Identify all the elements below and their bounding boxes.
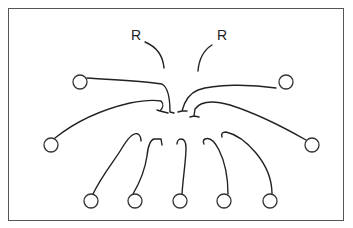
branch-mid-right bbox=[190, 102, 306, 140]
branch-mid-left bbox=[55, 100, 168, 138]
node-upper-left bbox=[73, 75, 87, 89]
branch-bottom-3 bbox=[177, 139, 186, 194]
node-bottom-2 bbox=[128, 194, 142, 208]
branch-bottom-4 bbox=[203, 139, 228, 194]
node-bottom-5 bbox=[263, 194, 277, 208]
branch-bottom-2 bbox=[133, 139, 162, 194]
node-bottom-1 bbox=[84, 194, 98, 208]
branch-upper-left bbox=[87, 78, 174, 113]
node-bottom-3 bbox=[173, 194, 187, 208]
branch-bottom-5 bbox=[222, 132, 272, 194]
node-mid-left bbox=[44, 138, 58, 152]
r-curve-right bbox=[198, 45, 212, 71]
branch-bottom-1 bbox=[93, 134, 141, 194]
branch-upper-right bbox=[178, 85, 276, 112]
r-curve-left bbox=[145, 42, 164, 68]
node-mid-right bbox=[305, 138, 319, 152]
node-bottom-4 bbox=[217, 194, 231, 208]
node-upper-right bbox=[279, 75, 293, 89]
branch-diagram bbox=[0, 0, 353, 228]
